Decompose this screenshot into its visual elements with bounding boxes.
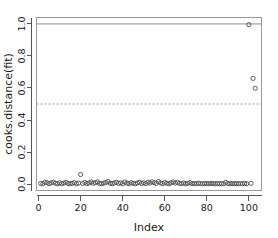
x-axis-title: Index [134,221,165,234]
x-tick-label: 20 [75,202,87,213]
x-axis-ticks: 020406080100 [36,196,258,214]
x-tick-label: 80 [201,202,213,213]
data-points-group [39,23,258,186]
y-axis: 0.00.20.40.60.81.0 cooks.distance(fit) [2,16,32,191]
y-tick-label: 0.6 [17,80,28,95]
cooks-distance-plot: 020406080100 Index 0.00.20.40.60.81.0 co… [0,0,278,238]
x-tick-label: 60 [159,202,171,213]
y-tick-label: 0.2 [17,145,28,160]
data-point [249,181,253,185]
y-tick-label: 0.8 [17,48,28,63]
data-point [247,23,251,27]
x-tick-label: 0 [36,202,42,213]
chart-canvas: 020406080100 Index 0.00.20.40.60.81.0 co… [0,0,278,238]
x-tick-label: 100 [240,202,258,213]
data-point [79,172,83,176]
y-tick-label: 0.4 [17,112,28,127]
y-tick-label: 0.0 [17,177,28,192]
y-axis-ticks: 0.00.20.40.60.81.0 [17,16,32,191]
data-point [251,76,255,80]
y-axis-title: cooks.distance(fit) [2,53,15,155]
x-tick-label: 40 [117,202,129,213]
y-tick-label: 1.0 [17,16,28,31]
reference-lines-group [37,24,262,104]
x-axis: 020406080100 Index [36,196,262,235]
data-point [253,86,257,90]
